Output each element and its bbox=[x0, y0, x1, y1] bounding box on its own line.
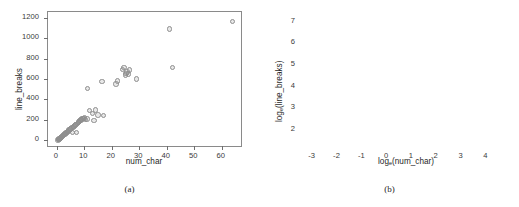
y-tick bbox=[44, 120, 48, 121]
data-point bbox=[101, 113, 106, 118]
x-axis-title-b-subscript: e bbox=[389, 160, 392, 166]
y-tick-label: 1200 bbox=[17, 13, 39, 21]
x-tick-label: 4 bbox=[483, 152, 487, 160]
figure-scatterplot-pair: 0200400600800100012000102030405060 num_c… bbox=[0, 0, 519, 207]
y-tick-label: 1000 bbox=[17, 33, 39, 41]
x-tick bbox=[194, 146, 195, 150]
y-axis-title-b-subscript: e bbox=[278, 108, 284, 111]
x-axis-title-b: loge(num_char) bbox=[378, 158, 434, 166]
y-tick bbox=[44, 18, 48, 19]
data-point bbox=[230, 19, 235, 24]
y-axis-title-b-suffix: (line_breaks) bbox=[275, 61, 284, 108]
y-tick-label: 2 bbox=[273, 125, 295, 133]
x-tick-label: 20 bbox=[107, 152, 115, 160]
caption-a: (a) bbox=[0, 184, 259, 194]
x-tick bbox=[167, 146, 168, 150]
x-axis-title-b-prefix: log bbox=[378, 157, 389, 166]
y-tick bbox=[44, 59, 48, 60]
data-point bbox=[127, 67, 132, 72]
data-point bbox=[167, 26, 172, 31]
x-tick-label: -3 bbox=[308, 152, 315, 160]
x-tick-label: 10 bbox=[79, 152, 87, 160]
y-tick bbox=[44, 140, 48, 141]
data-point bbox=[99, 79, 104, 84]
plot-area-a bbox=[48, 12, 241, 146]
y-axis-title-b-prefix: log bbox=[275, 111, 284, 122]
y-tick-label: 6 bbox=[273, 39, 295, 47]
y-tick bbox=[44, 79, 48, 80]
x-tick-label: -2 bbox=[333, 152, 340, 160]
data-point bbox=[170, 65, 175, 70]
x-tick bbox=[139, 146, 140, 150]
caption-b: (b) bbox=[260, 184, 519, 194]
y-axis-title-a: line_breaks bbox=[16, 68, 24, 110]
data-point bbox=[74, 130, 79, 135]
x-tick-label: 3 bbox=[458, 152, 462, 160]
x-tick bbox=[84, 146, 85, 150]
x-tick bbox=[112, 146, 113, 150]
x-tick bbox=[57, 146, 58, 150]
y-tick-label: 7 bbox=[273, 17, 295, 25]
x-tick bbox=[222, 146, 223, 150]
y-tick-label: 800 bbox=[17, 54, 39, 62]
data-point bbox=[134, 76, 139, 81]
panel-b: 234567-3-2-101234 loge(num_char) loge(li… bbox=[260, 0, 519, 207]
data-point bbox=[85, 86, 90, 91]
y-tick bbox=[44, 38, 48, 39]
data-point bbox=[115, 78, 120, 83]
data-point bbox=[84, 116, 89, 121]
plot-frame-a bbox=[47, 11, 242, 147]
y-tick-label: 200 bbox=[17, 115, 39, 123]
x-tick-label: 60 bbox=[217, 152, 225, 160]
data-point bbox=[95, 112, 100, 117]
x-axis-title-b-suffix: (num_char) bbox=[392, 157, 434, 166]
x-tick-label: -1 bbox=[358, 152, 365, 160]
x-tick-label: 0 bbox=[54, 152, 58, 160]
panel-a: 0200400600800100012000102030405060 num_c… bbox=[0, 0, 259, 207]
data-point bbox=[91, 118, 96, 123]
x-axis-title-a: num_char bbox=[126, 158, 162, 166]
y-axis-title-b: loge(line_breaks) bbox=[276, 61, 284, 122]
y-tick-label: 0 bbox=[17, 136, 39, 144]
x-tick-label: 2 bbox=[434, 152, 438, 160]
x-tick-label: 40 bbox=[162, 152, 170, 160]
y-tick bbox=[44, 99, 48, 100]
x-tick-label: 50 bbox=[189, 152, 197, 160]
